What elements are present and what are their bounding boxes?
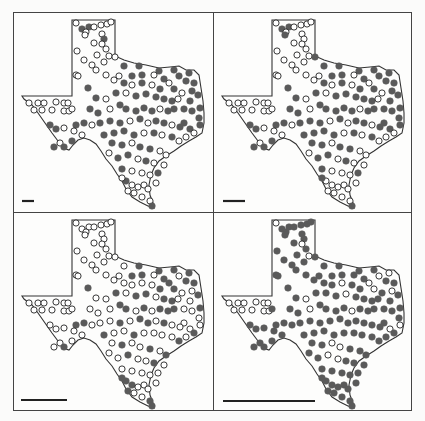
station-marker-open: [153, 180, 159, 186]
station-marker-open: [133, 308, 139, 314]
station-marker-open: [103, 46, 109, 52]
station-marker-filled: [381, 306, 388, 313]
station-marker-open: [74, 48, 80, 54]
station-marker-filled: [143, 291, 150, 298]
station-marker-open: [183, 134, 189, 140]
station-marker-filled: [397, 105, 404, 112]
station-marker-open: [329, 82, 335, 88]
station-marker-open: [35, 100, 41, 106]
station-marker-filled: [377, 324, 384, 331]
station-marker-filled: [351, 272, 358, 279]
station-marker-filled: [351, 330, 358, 337]
station-marker-open: [93, 267, 99, 273]
station-marker-open: [115, 355, 121, 361]
station-marker-filled: [303, 272, 310, 279]
station-marker-open: [135, 184, 141, 190]
station-marker-filled: [319, 166, 326, 173]
station-marker-open: [65, 100, 71, 106]
station-marker-filled: [355, 370, 362, 377]
station-marker-filled: [157, 306, 164, 313]
texas-outline: [22, 20, 204, 208]
station-marker-open: [143, 358, 149, 364]
station-marker-filled: [321, 80, 328, 87]
station-marker-open: [39, 107, 45, 113]
station-marker-filled: [191, 80, 198, 87]
station-marker-open: [189, 308, 195, 314]
station-marker-open: [269, 106, 275, 112]
station-marker-filled: [319, 375, 326, 382]
station-marker-open: [119, 175, 125, 181]
station-marker-filled: [195, 292, 202, 299]
station-marker-open: [94, 252, 100, 258]
station-marker-open: [176, 138, 182, 144]
station-marker-filled: [329, 282, 336, 289]
station-marker-filled: [196, 115, 203, 122]
station-marker-filled: [181, 106, 188, 113]
station-marker-filled: [317, 320, 324, 327]
station-marker-filled: [389, 308, 396, 315]
station-marker-open: [26, 100, 32, 106]
station-marker-filled: [253, 126, 260, 133]
station-marker-filled: [117, 102, 124, 109]
station-marker-filled: [377, 124, 384, 131]
station-marker-open: [82, 232, 88, 238]
station-marker-open: [112, 254, 118, 260]
station-marker-open: [89, 322, 95, 328]
station-marker-filled: [285, 85, 292, 92]
station-marker-filled: [121, 128, 128, 135]
station-marker-open: [369, 122, 375, 128]
station-marker-open: [139, 170, 145, 176]
station-marker-open: [366, 80, 372, 86]
station-marker-filled: [331, 390, 338, 397]
station-marker-open: [389, 288, 395, 294]
station-marker-open: [274, 48, 280, 54]
station-marker-open: [145, 186, 151, 192]
texas-map: [14, 213, 214, 413]
station-marker-filled: [306, 350, 313, 357]
station-marker-filled: [369, 98, 376, 105]
station-marker-filled: [317, 102, 324, 109]
station-marker-filled: [197, 105, 204, 112]
station-marker-open: [169, 322, 175, 328]
station-marker-filled: [269, 138, 276, 145]
station-marker-filled: [333, 293, 340, 300]
station-marker-filled: [376, 338, 383, 345]
station-marker-open: [273, 20, 279, 26]
station-marker-filled: [169, 298, 176, 305]
station-marker-open: [73, 220, 79, 226]
station-marker-filled: [147, 146, 154, 153]
station-marker-filled: [389, 88, 396, 95]
station-marker-open: [91, 40, 97, 46]
station-marker-open: [265, 100, 271, 106]
station-marker-open: [125, 188, 131, 194]
station-marker-open: [289, 122, 295, 128]
station-marker-filled: [117, 302, 124, 309]
station-marker-filled: [395, 292, 402, 299]
station-marker-open: [169, 122, 175, 128]
station-marker-filled: [131, 332, 138, 339]
station-marker-filled: [353, 380, 360, 387]
station-marker-open: [139, 394, 145, 400]
station-marker-filled: [347, 146, 354, 153]
station-marker-open: [279, 132, 285, 138]
station-marker-filled: [171, 306, 178, 313]
station-marker-filled: [317, 120, 324, 127]
station-marker-filled: [269, 306, 276, 313]
station-marker-filled: [301, 332, 308, 339]
station-marker-open: [149, 308, 155, 314]
station-marker-open: [151, 330, 157, 336]
station-marker-filled: [165, 308, 172, 315]
station-marker-open: [107, 318, 113, 324]
station-marker-filled: [341, 330, 348, 337]
station-marker-filled: [331, 332, 338, 339]
station-marker-open: [291, 24, 297, 30]
station-marker-open: [153, 294, 159, 300]
station-marker-filled: [361, 96, 368, 103]
station-marker-filled: [53, 126, 60, 133]
station-marker-open: [69, 338, 75, 344]
station-marker-filled: [176, 338, 183, 345]
station-marker-filled: [109, 140, 116, 147]
station-marker-open: [226, 100, 232, 106]
station-marker-open: [94, 52, 100, 58]
station-marker-filled: [353, 294, 360, 301]
